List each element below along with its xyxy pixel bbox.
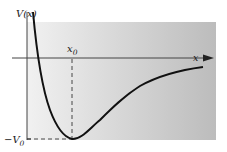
v0-label-subscript: 0: [20, 139, 25, 148]
v0-label: −V0: [4, 134, 25, 148]
x-axis-label: x: [193, 52, 199, 63]
potential-energy-diagram: V(x) x x0 −V0: [0, 0, 227, 152]
x0-label-subscript: 0: [73, 48, 78, 57]
y-axis-label: V(x): [16, 8, 37, 19]
